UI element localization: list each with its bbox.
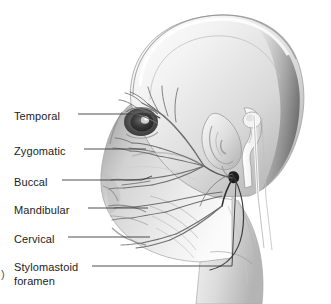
anatomical-figure: Temporal Zygomatic Buccal Mandibular Cer… [0, 0, 331, 304]
label-cervical: Cervical [14, 233, 55, 246]
label-mandibular: Mandibular [14, 204, 69, 217]
label-zygomatic: Zygomatic [14, 145, 66, 158]
label-stylomastoid-foramen-line2: foramen [14, 275, 55, 288]
label-temporal: Temporal [14, 110, 60, 123]
label-stylomastoid-foramen-line1: Stylomastoid [14, 261, 78, 274]
label-buccal: Buccal [14, 176, 48, 189]
caption-fragment: ) [1, 268, 5, 280]
